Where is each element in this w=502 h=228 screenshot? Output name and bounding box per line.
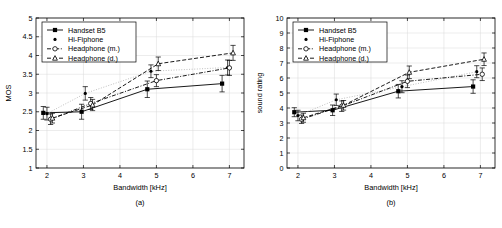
x-tick-label: 3	[332, 171, 336, 180]
y-tick-label: 9	[280, 29, 284, 38]
y-tick-label: 1	[29, 164, 33, 173]
x-tick-label: 3	[81, 171, 85, 180]
marker-open-circle	[227, 66, 231, 70]
x-tick-label: 7	[478, 171, 482, 180]
marker-filled-square	[304, 28, 308, 32]
legend: Handset B5Hi-FiphoneHeadphone (m.)Headph…	[293, 22, 387, 63]
y-tick-label: 3	[280, 119, 284, 128]
legend-label: Headphone (m.)	[319, 44, 371, 53]
marker-open-circle	[304, 47, 308, 51]
marker-dot	[335, 98, 338, 101]
x-tick-label: 6	[442, 171, 446, 180]
marker-filled-square	[41, 111, 45, 115]
marker-dot	[475, 70, 478, 73]
marker-open-circle	[405, 79, 409, 83]
y-axis-label: MOS	[4, 85, 13, 102]
y-tick-label: 4.5	[23, 32, 33, 41]
chart-mos: 23456711.522.533.544.55Bandwidth [kHz]MO…	[0, 0, 251, 228]
marker-open-triangle	[231, 50, 236, 55]
x-axis-label: Bandwidth [kHz]	[113, 183, 166, 192]
y-tick-label: 5	[29, 14, 33, 23]
marker-open-circle	[154, 78, 158, 82]
x-tick-label: 4	[369, 171, 373, 180]
marker-filled-square	[471, 84, 475, 88]
marker-open-circle	[480, 72, 484, 76]
marker-dot	[400, 85, 403, 88]
x-tick-label: 4	[118, 171, 122, 180]
y-tick-label: 10	[276, 14, 284, 23]
legend-label: Headphone (m.)	[68, 44, 120, 53]
panel-caption: (b)	[386, 198, 395, 207]
y-tick-label: 7	[280, 59, 284, 68]
marker-dot	[296, 114, 299, 117]
series-dot	[44, 60, 230, 120]
legend-label: Headphone (d.)	[319, 54, 369, 63]
legend-label: Hi-Fiphone	[68, 35, 103, 44]
x-tick-label: 5	[154, 171, 158, 180]
legend-label: Handset B5	[68, 26, 106, 35]
y-tick-label: 4	[280, 104, 284, 113]
x-tick-label: 6	[191, 171, 195, 180]
y-tick-label: 0	[280, 164, 284, 173]
marker-dot	[84, 92, 87, 95]
y-tick-label: 5	[280, 89, 284, 98]
series-line	[298, 72, 477, 116]
y-tick-label: 1.5	[23, 145, 33, 154]
marker-filled-square	[220, 82, 224, 86]
marker-dot	[304, 38, 307, 41]
x-tick-label: 5	[405, 171, 409, 180]
marker-open-circle	[53, 47, 57, 51]
y-tick-label: 1	[280, 149, 284, 158]
panel-b: 234567012345678910Bandwidth [kHz]sound r…	[251, 0, 502, 228]
y-tick-label: 4	[29, 51, 33, 60]
marker-filled-square	[145, 87, 149, 91]
y-tick-label: 2	[29, 126, 33, 135]
figure-two-panel: 23456711.522.533.544.55Bandwidth [kHz]MO…	[0, 0, 502, 228]
series-open-circle	[48, 60, 232, 124]
panel-a: 23456711.522.533.544.55Bandwidth [kHz]MO…	[0, 0, 251, 228]
y-tick-label: 6	[280, 74, 284, 83]
y-tick-label: 8	[280, 44, 284, 53]
y-tick-label: 2	[280, 134, 284, 143]
series-line	[294, 87, 473, 113]
chart-sound-rating: 234567012345678910Bandwidth [kHz]sound r…	[251, 0, 502, 228]
y-tick-label: 2.5	[23, 107, 33, 116]
y-tick-label: 3	[29, 89, 33, 98]
x-tick-label: 2	[296, 171, 300, 180]
legend-label: Headphone (d.)	[68, 54, 118, 63]
marker-open-triangle	[482, 57, 487, 62]
marker-dot	[149, 70, 152, 73]
marker-filled-square	[80, 110, 84, 114]
marker-dot	[53, 38, 56, 41]
legend-label: Hi-Fiphone	[319, 35, 354, 44]
legend: Handset B5Hi-FiphoneHeadphone (m.)Headph…	[42, 22, 136, 63]
x-axis-label: Bandwidth [kHz]	[364, 183, 417, 192]
x-tick-label: 2	[45, 171, 49, 180]
y-tick-label: 3.5	[23, 70, 33, 79]
marker-filled-square	[292, 110, 296, 114]
legend-label: Handset B5	[319, 26, 357, 35]
x-tick-label: 7	[227, 171, 231, 180]
marker-dot	[45, 112, 48, 115]
y-axis-label: sound rating	[255, 73, 264, 114]
series-open-circle	[299, 68, 485, 124]
series-line	[43, 84, 222, 113]
marker-filled-square	[53, 28, 57, 32]
panel-caption: (a)	[135, 198, 144, 207]
